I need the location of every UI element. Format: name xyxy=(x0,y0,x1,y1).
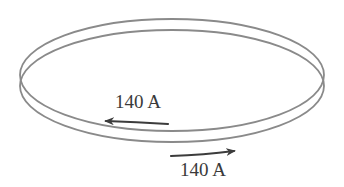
current-loops-diagram xyxy=(0,0,344,187)
lower-current-label: 140 A xyxy=(180,160,226,179)
upper-current-label: 140 A xyxy=(115,92,161,111)
upper-current-arrow-icon xyxy=(106,121,168,124)
lower-current-loop xyxy=(20,30,324,142)
lower-current-arrow-icon xyxy=(171,151,234,156)
upper-current-loop xyxy=(20,19,324,131)
